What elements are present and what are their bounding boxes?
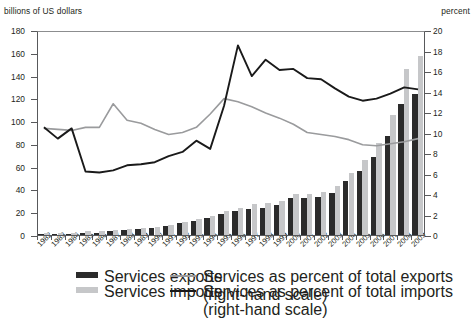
legend: Services exports Services as percent of …	[0, 268, 474, 298]
right-tick-mark	[425, 31, 431, 32]
left-tick-label: 20	[16, 209, 25, 217]
left-tick-label: 120	[11, 95, 25, 103]
legend-row-1: Services exports Services as percent of …	[0, 268, 474, 283]
left-tick-label: 180	[11, 27, 25, 35]
line-exports-percent	[44, 99, 418, 146]
left-tick-label: 0	[20, 232, 25, 240]
right-tick-mark	[425, 93, 431, 94]
right-tick-mark	[425, 154, 431, 155]
plot-area	[37, 31, 425, 236]
right-tick-label: 12	[433, 109, 442, 117]
legend-swatch-exports-bar	[76, 272, 98, 278]
right-tick-label: 8	[433, 150, 438, 158]
left-tick-label: 100	[11, 118, 25, 126]
line-imports-percent	[44, 45, 418, 172]
right-tick-label: 4	[433, 191, 438, 199]
right-tick-mark	[425, 113, 431, 114]
right-tick-mark	[425, 72, 431, 73]
right-tick-mark	[425, 216, 431, 217]
right-tick-label: 2	[433, 212, 438, 220]
left-tick-label: 80	[16, 141, 25, 149]
right-tick-label: 14	[433, 89, 442, 97]
legend-row-2: Services imports Services as percent of …	[0, 283, 474, 298]
left-tick-label: 60	[16, 164, 25, 172]
right-tick-mark	[425, 52, 431, 53]
legend-swatch-imports-bar	[76, 287, 98, 293]
right-tick-label: 6	[433, 171, 438, 179]
line-group	[37, 31, 425, 236]
right-tick-label: 16	[433, 68, 442, 76]
right-tick-mark	[425, 175, 431, 176]
legend-label-imports-line: Services as percent of total imports (ri…	[203, 283, 474, 319]
legend-swatch-exports-line	[170, 275, 196, 277]
left-axis-title: billions of US dollars	[4, 6, 82, 16]
left-tick-label: 140	[11, 73, 25, 81]
right-tick-label: 18	[433, 48, 442, 56]
right-axis-title: percent	[441, 6, 470, 16]
right-tick-mark	[425, 134, 431, 135]
right-tick-label: 10	[433, 130, 442, 138]
right-tick-mark	[425, 195, 431, 196]
right-tick-label: 20	[433, 27, 442, 35]
legend-swatch-imports-line	[170, 290, 196, 292]
left-tick-label: 160	[11, 50, 25, 58]
right-tick-label: 0	[433, 232, 438, 240]
left-tick-label: 40	[16, 186, 25, 194]
